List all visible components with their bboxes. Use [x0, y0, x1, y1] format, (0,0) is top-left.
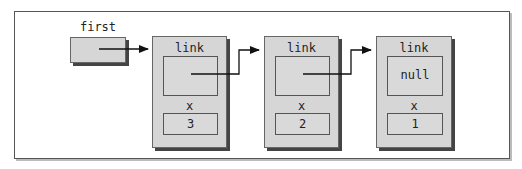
pointer-arrows [0, 0, 522, 169]
arrow-node-2-to-node-3 [303, 50, 371, 74]
arrow-node-1-to-node-2 [191, 50, 259, 74]
